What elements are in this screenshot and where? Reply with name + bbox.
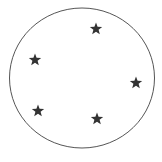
circle-outline <box>10 8 155 148</box>
stars-group <box>29 23 142 125</box>
star-icon <box>91 113 103 125</box>
stars-in-circle-diagram <box>0 0 162 162</box>
star-icon <box>29 54 41 66</box>
star-icon <box>90 23 102 35</box>
star-icon <box>130 77 142 89</box>
star-icon <box>32 105 44 117</box>
